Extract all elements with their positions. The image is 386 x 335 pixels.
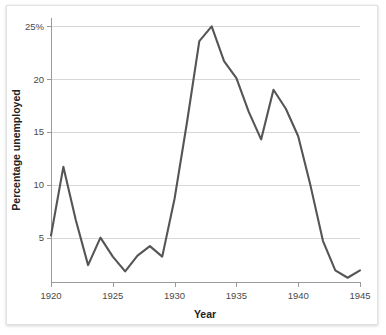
unemployment-series-line xyxy=(51,26,360,277)
x-tick-label: 1935 xyxy=(226,290,247,301)
x-tick-label: 1940 xyxy=(288,290,309,301)
x-tick-label: 1925 xyxy=(102,290,123,301)
y-tick-label: 25% xyxy=(25,21,45,32)
chart-svg: 510152025% 192019251930193519401945 Perc… xyxy=(0,0,386,335)
x-tick-label: 1930 xyxy=(164,290,185,301)
x-axis-title: Year xyxy=(194,308,216,320)
line-chart: 510152025% 192019251930193519401945 Perc… xyxy=(0,0,386,335)
x-tick-label: 1945 xyxy=(349,290,370,301)
y-axis-tick-labels: 510152025% xyxy=(25,21,45,243)
gridlines xyxy=(51,27,360,239)
y-tick-label: 15 xyxy=(33,126,44,137)
y-tick-label: 10 xyxy=(33,179,44,190)
y-axis-title: Percentage unemployed xyxy=(10,89,22,210)
y-tick-label: 20 xyxy=(33,74,44,85)
x-axis-tick-labels: 192019251930193519401945 xyxy=(40,290,370,301)
x-tick-label: 1920 xyxy=(40,290,61,301)
tick-marks xyxy=(47,27,361,288)
y-tick-label: 5 xyxy=(39,232,44,243)
